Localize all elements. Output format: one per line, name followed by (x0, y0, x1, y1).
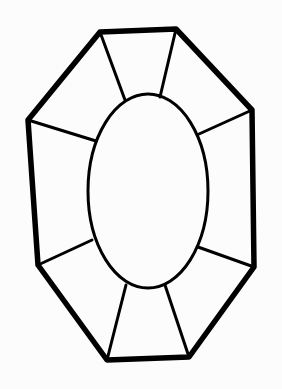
facet-line (28, 120, 96, 141)
octagon-outline (28, 29, 254, 360)
facet-line (107, 285, 126, 360)
gem-outline-drawing (0, 0, 282, 389)
facet-line (165, 285, 189, 357)
facet-line (199, 110, 252, 134)
table-oval (88, 94, 208, 288)
gem-diagram (0, 0, 282, 389)
facet-line (198, 247, 254, 267)
facet-line (160, 29, 176, 97)
facet-line (38, 240, 92, 265)
facet-line (100, 32, 125, 100)
